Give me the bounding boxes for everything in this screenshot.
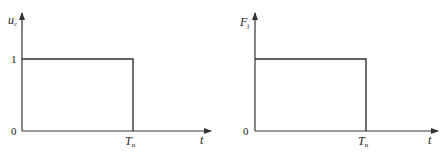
right-x-label: t: [428, 133, 432, 147]
left-x-label: t: [200, 133, 204, 147]
right-x-tick-tn: Tn: [358, 134, 369, 149]
right-y-label: Fj: [239, 15, 249, 30]
left-x-tick-tn: Tn: [125, 134, 136, 149]
right-chart: Fj 0 Tn t: [239, 13, 438, 149]
right-pulse-curve: [255, 59, 366, 131]
left-chart: uc 1 0 Tn t: [8, 13, 211, 149]
left-origin-label: 0: [11, 125, 17, 137]
pulse-diagrams: uc 1 0 Tn t Fj 0 Tn t: [0, 0, 447, 158]
left-y-label: uc: [8, 13, 17, 28]
left-y-tick-1: 1: [11, 53, 17, 65]
left-pulse-curve: [22, 59, 133, 131]
right-origin-label: 0: [243, 125, 249, 137]
